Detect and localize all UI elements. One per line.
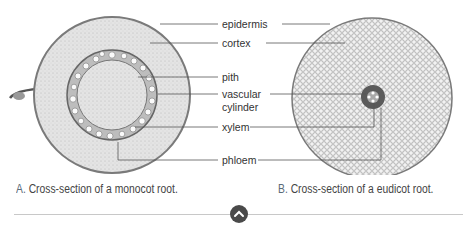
label-cylinder: cylinder (222, 101, 258, 113)
caption-b: B. Cross-section of a eudicot root. (278, 182, 433, 196)
label-cortex: cortex (222, 37, 251, 49)
caption-a: A. Cross-section of a monocot root. (16, 182, 178, 196)
caption-b-text: Cross-section of a eudicot root. (291, 182, 434, 196)
caption-a-text: Cross-section of a monocot root. (29, 182, 178, 196)
scroll-up-button[interactable] (230, 205, 248, 223)
caption-b-letter: B. (278, 182, 288, 196)
chevron-up-icon (230, 205, 248, 223)
monocot-root-image (10, 17, 190, 173)
caption-a-letter: A. (16, 182, 26, 196)
label-vascular: vascular (222, 88, 261, 100)
root-cross-section-figure: epidermis cortex pith vascular cylinder … (0, 0, 473, 175)
label-xylem: xylem (222, 121, 249, 133)
label-epidermis: epidermis (222, 18, 268, 30)
label-pith: pith (222, 71, 239, 83)
label-phloem: phloem (222, 154, 256, 166)
eudicot-root-image (292, 18, 452, 175)
